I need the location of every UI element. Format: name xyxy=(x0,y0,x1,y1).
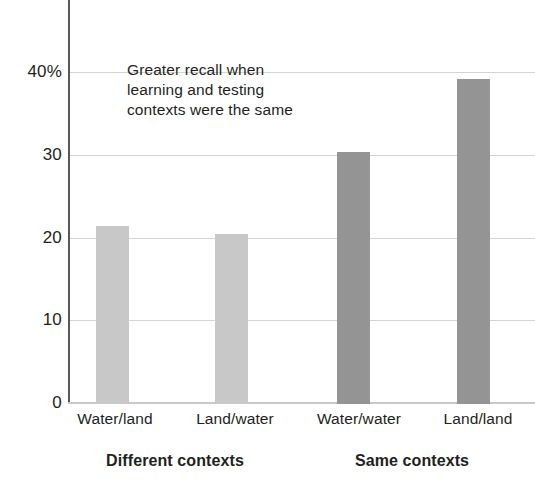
y-tick-label-30: 30 xyxy=(4,145,62,165)
bar-water-land xyxy=(96,226,129,404)
x-label-water-water: Water/water xyxy=(293,410,425,428)
bar-chart: 40% 30 20 10 0 Water/land Land/water Wat… xyxy=(0,0,535,482)
bar-land-water xyxy=(215,234,248,404)
x-label-water-land: Water/land xyxy=(52,410,178,428)
y-tick-label-10: 10 xyxy=(4,310,62,330)
y-tick-label-40: 40% xyxy=(4,62,62,82)
y-tick-label-20: 20 xyxy=(4,228,62,248)
bar-land-land xyxy=(457,79,490,404)
bar-water-water xyxy=(337,152,370,404)
group-label-same-contexts: Same contexts xyxy=(307,452,517,470)
x-label-land-land: Land/land xyxy=(421,410,535,428)
chart-annotation: Greater recall when learning and testing… xyxy=(127,60,293,120)
group-label-different-contexts: Different contexts xyxy=(55,452,295,470)
x-label-land-water: Land/water xyxy=(172,410,298,428)
